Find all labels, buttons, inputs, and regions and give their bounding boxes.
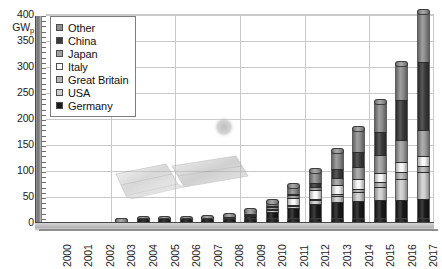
- x-axis-tick-label: 2008: [233, 244, 245, 267]
- bar-segment-germany[interactable]: [287, 209, 300, 222]
- y-axis-tick-label: 50: [0, 191, 34, 201]
- bar-segment-germany[interactable]: [266, 213, 279, 222]
- bar-top-cap: [395, 61, 408, 67]
- bar-segment-usa[interactable]: [374, 188, 387, 201]
- legend-item[interactable]: China: [56, 34, 128, 47]
- x-axis-tick-label: 2001: [82, 244, 94, 267]
- bar-segment-china[interactable]: [417, 63, 430, 131]
- bar-segment-other[interactable]: [287, 185, 300, 194]
- legend-item-label: Japan: [68, 48, 97, 60]
- bar-segment-china[interactable]: [331, 170, 344, 179]
- legend-item[interactable]: Italy: [56, 60, 128, 73]
- y-unit-subscript: p: [30, 26, 34, 35]
- bar-stack[interactable]: [417, 11, 430, 222]
- bar-stack[interactable]: [395, 63, 408, 222]
- x-axis-tick-label: 2003: [125, 244, 137, 267]
- legend-swatch-icon: [56, 89, 63, 96]
- y-axis-tick-label: 250: [0, 87, 34, 97]
- bar-stack[interactable]: [223, 215, 236, 222]
- x-axis-labels: 2000200120022003200420052006200720082009…: [46, 231, 434, 269]
- y-axis-tick-label: 0: [0, 217, 34, 227]
- bar-segment-germany[interactable]: [352, 202, 365, 222]
- bar-stack[interactable]: [287, 185, 300, 222]
- bar-top-cap: [309, 168, 322, 174]
- bar-segment-germany[interactable]: [374, 201, 387, 222]
- bar-top-cap: [331, 148, 344, 154]
- legend-swatch-icon: [56, 102, 63, 109]
- bar-segment-other[interactable]: [352, 128, 365, 153]
- y-axis-tick-label: 350: [0, 35, 34, 45]
- bar-segment-germany[interactable]: [309, 205, 322, 222]
- bar-segment-italy[interactable]: [395, 163, 408, 173]
- bar-segment-italy[interactable]: [352, 180, 365, 190]
- bar-stack[interactable]: [352, 128, 365, 222]
- bar-top-cap: [287, 183, 300, 189]
- bar-segment-japan[interactable]: [395, 141, 408, 163]
- x-axis-tick-label: 2007: [212, 244, 224, 267]
- y-axis-tick-label: 400: [0, 9, 34, 19]
- bar-segment-italy[interactable]: [287, 199, 300, 206]
- x-axis-tick-label: 2013: [341, 244, 353, 267]
- bar-segment-china[interactable]: [374, 133, 387, 156]
- bar-segment-japan[interactable]: [331, 179, 344, 186]
- y-axis-wall: [35, 16, 42, 223]
- bar-segment-other[interactable]: [309, 170, 322, 184]
- bar-stack[interactable]: [374, 101, 387, 222]
- x-axis-tick-label: 2005: [169, 244, 181, 267]
- bar-stack[interactable]: [309, 170, 322, 222]
- bar-segment-other[interactable]: [395, 63, 408, 100]
- bar-segment-other[interactable]: [374, 101, 387, 133]
- y-axis-tick-label: 200: [0, 113, 34, 123]
- bar-segment-italy[interactable]: [309, 191, 322, 200]
- bar-stack[interactable]: [266, 201, 279, 222]
- x-axis-tick-label: 2000: [61, 244, 73, 267]
- bar-segment-italy[interactable]: [417, 157, 430, 167]
- legend-item-label: Italy: [68, 61, 88, 73]
- x-axis-tick-label: 2014: [363, 244, 375, 267]
- x-axis-tick-label: 2004: [147, 244, 159, 267]
- bar-segment-china[interactable]: [395, 101, 408, 141]
- x-axis-tick-label: 2002: [104, 244, 116, 267]
- legend-swatch-icon: [56, 76, 63, 83]
- legend-item[interactable]: Great Britain: [56, 73, 128, 86]
- bar-segment-usa[interactable]: [352, 193, 365, 203]
- bar-segment-japan[interactable]: [417, 131, 430, 156]
- bar-segment-usa[interactable]: [417, 173, 430, 200]
- bar-segment-great-britain[interactable]: [417, 167, 430, 174]
- legend-item-label: Other: [68, 22, 95, 34]
- y-axis-tick-label: 150: [0, 139, 34, 149]
- bar-segment-china[interactable]: [352, 153, 365, 168]
- bar-segment-other[interactable]: [417, 11, 430, 63]
- legend-item-label: USA: [68, 87, 90, 99]
- x-axis-tick-label: 2016: [406, 244, 418, 267]
- x-axis-tick-label: 2015: [384, 244, 396, 267]
- legend-swatch-icon: [56, 63, 63, 70]
- bar-stack[interactable]: [244, 210, 257, 222]
- bar-stack[interactable]: [331, 150, 344, 222]
- x-axis-tick-label: 2011: [298, 245, 310, 267]
- legend-item[interactable]: Japan: [56, 47, 128, 60]
- legend: OtherChinaJapanItalyGreat BritainUSAGerm…: [50, 16, 136, 117]
- bar-segment-usa[interactable]: [395, 180, 408, 201]
- legend-item[interactable]: Germany: [56, 99, 128, 112]
- bar-segment-japan[interactable]: [374, 156, 387, 174]
- bar-segment-other[interactable]: [331, 150, 344, 169]
- x-axis-tick-label: 2006: [190, 244, 202, 267]
- bar-segment-germany[interactable]: [417, 200, 430, 222]
- y-axis-tick-label: 100: [0, 165, 34, 175]
- legend-item[interactable]: Other: [56, 21, 128, 34]
- bar-segment-germany[interactable]: [395, 201, 408, 222]
- bar-segment-italy[interactable]: [374, 174, 387, 184]
- bar-top-cap: [352, 126, 365, 132]
- y-axis-tick-label: 300: [0, 61, 34, 71]
- legend-swatch-icon: [56, 37, 63, 44]
- bar-segment-germany[interactable]: [331, 203, 344, 222]
- bar-top-cap: [374, 99, 387, 105]
- bar-segment-japan[interactable]: [352, 168, 365, 180]
- bar-top-cap: [266, 199, 279, 205]
- bar-segment-italy[interactable]: [331, 186, 344, 195]
- x-axis-tick-label: 2010: [276, 244, 288, 267]
- legend-item-label: Germany: [68, 100, 113, 112]
- legend-item[interactable]: USA: [56, 86, 128, 99]
- x-axis-tick-label: 2009: [255, 244, 267, 267]
